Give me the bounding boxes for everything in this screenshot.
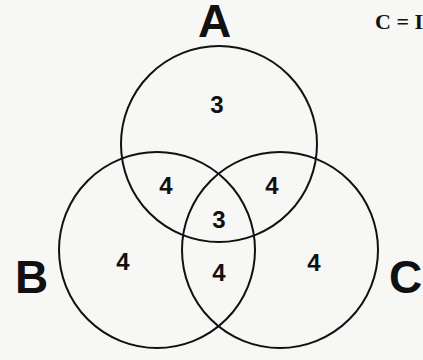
set-label-a: A <box>198 0 231 44</box>
region-a-b-c: 3 <box>212 208 225 232</box>
caption-text: C = I <box>375 9 423 35</box>
set-label-b: B <box>15 254 48 300</box>
venn-diagram <box>0 0 423 360</box>
region-c-only: 4 <box>307 251 320 275</box>
region-a-b: 4 <box>159 174 172 198</box>
region-b-only: 4 <box>116 250 129 274</box>
circle-c <box>182 152 378 348</box>
region-a-only: 3 <box>210 93 223 117</box>
set-label-c: C <box>389 254 422 300</box>
region-b-c: 4 <box>212 261 225 285</box>
circle-b <box>59 152 255 348</box>
region-a-c: 4 <box>265 174 278 198</box>
